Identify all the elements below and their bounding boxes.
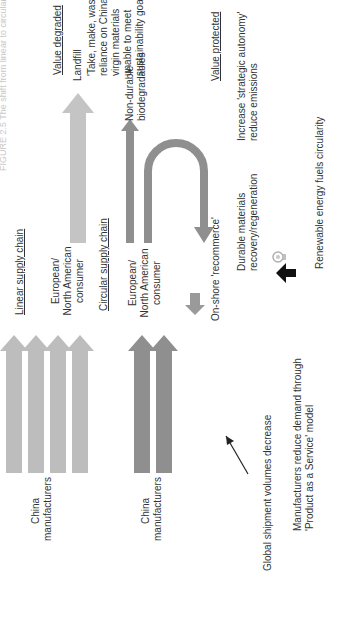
linear-heading: Linear supply chain [14,229,26,315]
landfill-label: Landfill [72,49,84,81]
non-durable-label: Non-durable biodegradables [124,53,148,121]
recommerce-arrow [185,293,205,315]
linear-shipment-arrows [0,335,94,473]
figure-title: FIGURE 2.5 The shift from linear to circ… [0,0,9,171]
supply-chain-diagram: FIGURE 2.5 The shift from linear to circ… [0,0,337,641]
linear-landfill-arrow [62,93,94,243]
circular-source-label: China manufacturers [140,481,164,541]
linear-source-label: China manufacturers [30,481,54,541]
value-protected-heading: Value protected [210,12,222,81]
lightbulb-icon [273,252,286,262]
paas-label: Manufacturers reduce demand through 'Pro… [292,358,316,531]
linear-consumer-label: European/ North American consumer [50,241,86,321]
durable-materials-label: Durable materials recovery/regeneration [236,174,260,271]
renewable-arrow [276,263,296,283]
circular-shipment-arrows [128,335,178,473]
renewable-energy-label: Renewable energy fuels circularity [314,117,326,269]
value-degraded-heading: Value degraded [52,5,64,75]
recommerce-label: On-shore 'recommerce' [210,217,222,321]
circular-heading: Circular supply chain [98,218,110,311]
arrow-icon [226,436,248,474]
shipment-volumes-label: Global shipment volumes decrease [262,415,274,571]
non-durable-arrow [121,119,139,243]
value-protected-description: Increase 'strategic autonomy' reduce emi… [236,12,260,141]
circular-consumer-label: European/ North American consumer [127,243,163,323]
